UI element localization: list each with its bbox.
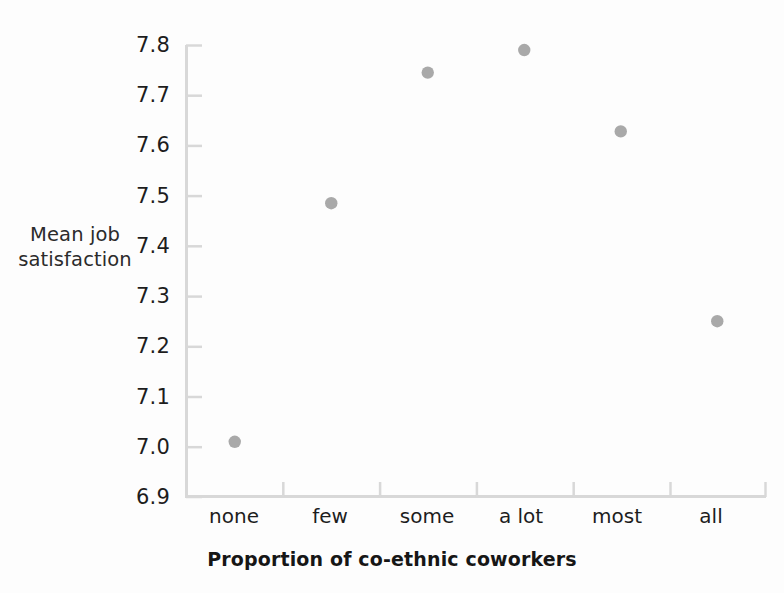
y-tick-label: 7.6 (106, 133, 170, 157)
scatter-plot-figure: Mean job satisfaction 7.8 7.7 7.6 7.5 7.… (0, 0, 784, 593)
x-tick-label-some: some (400, 504, 454, 528)
x-tick-label-all: all (699, 504, 722, 528)
y-tick-label: 7.8 (106, 33, 170, 57)
y-tick-label: 7.5 (106, 184, 170, 208)
y-tick-label: 7.4 (106, 234, 170, 258)
y-tick-label: 7.7 (106, 83, 170, 107)
y-tick-label: 7.2 (106, 334, 170, 358)
data-point (422, 66, 434, 78)
y-axis-ticks (186, 46, 202, 498)
data-point (325, 197, 337, 209)
y-tick-label: 7.0 (106, 435, 170, 459)
x-tick-label-most: most (592, 504, 642, 528)
x-tick-label-a-lot: a lot (499, 504, 543, 528)
y-tick-label: 7.1 (106, 385, 170, 409)
x-axis-tick-labels: none few some a lot most all (0, 504, 784, 538)
data-point (711, 315, 723, 327)
x-tick-label-none: none (209, 504, 259, 528)
data-point (229, 436, 241, 448)
y-tick-label: 7.3 (106, 284, 170, 308)
data-point (518, 44, 530, 56)
x-tick-label-few: few (312, 504, 348, 528)
data-points (229, 44, 724, 448)
x-axis-title: Proportion of co-ethnic coworkers (0, 548, 784, 570)
data-point (615, 125, 627, 137)
x-axis-ticks (187, 482, 766, 497)
